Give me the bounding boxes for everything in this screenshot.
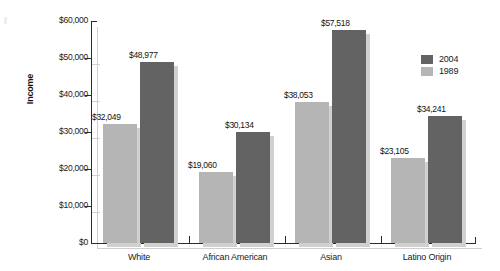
y-axis-tick-shadow: [92, 175, 100, 176]
bar-value-label: $19,060: [188, 160, 217, 170]
x-axis-separator-tick: [285, 236, 286, 244]
y-tick-label: $60,000: [40, 16, 88, 25]
x-axis-separator-tick: [381, 236, 382, 244]
x-category-label: African American: [187, 252, 283, 263]
bar-1989-white[interactable]: [103, 124, 137, 243]
bar-2004-latino-origin[interactable]: [428, 116, 462, 243]
bar-value-label: $30,134: [225, 120, 254, 130]
y-tick-label: $50,000: [40, 53, 88, 62]
y-tick-label: $0: [40, 238, 88, 247]
y-axis-tick-shadow: [92, 138, 100, 139]
legend-swatch: [421, 67, 433, 76]
bar-value-label: $23,105: [380, 146, 409, 156]
y-tick-label: $10,000: [40, 201, 88, 210]
scan-artifact: [4, 17, 7, 24]
y-tick-label: $20,000: [40, 164, 88, 173]
y-axis-tick: [85, 58, 92, 59]
bar-1989-african-american[interactable]: [199, 172, 233, 243]
y-axis-tick: [85, 169, 92, 170]
bar-1989-asian[interactable]: [295, 102, 329, 243]
y-axis-tick-shadow: [92, 212, 100, 213]
plot-area: $32,049$48,977$19,060$30,134$38,053$57,5…: [91, 21, 476, 243]
bar-value-label: $38,053: [284, 90, 313, 100]
x-axis-separator-tick: [189, 236, 190, 244]
x-axis-shadow: [97, 248, 482, 249]
x-category-label: Latino Origin: [379, 252, 475, 263]
legend-label: 1989: [439, 66, 458, 77]
income-bar-chart: Income $0$10,000$20,000$30,000$40,000$50…: [0, 0, 500, 271]
bar-value-label: $32,049: [92, 112, 121, 122]
y-axis-tick: [85, 95, 92, 96]
y-tick-label: $40,000: [40, 90, 88, 99]
y-axis-title: Income: [23, 54, 37, 124]
y-axis-tick-labels: $0$10,000$20,000$30,000$40,000$50,000$60…: [40, 0, 88, 271]
y-axis-tick-shadow: [92, 64, 100, 65]
bar-value-label: $34,241: [417, 104, 446, 114]
bar-value-label: $48,977: [129, 50, 158, 60]
y-tick-label: $30,000: [40, 127, 88, 136]
x-category-label: White: [91, 252, 187, 263]
bar-1989-latino-origin[interactable]: [391, 158, 425, 243]
bar-2004-asian[interactable]: [332, 30, 366, 243]
y-axis-tick: [85, 132, 92, 133]
legend-label: 2004: [439, 54, 458, 65]
bar-value-label: $57,518: [321, 18, 350, 28]
y-axis-tick: [85, 206, 92, 207]
bar-2004-white[interactable]: [140, 62, 174, 243]
legend-swatch: [421, 55, 433, 64]
bar-2004-african-american[interactable]: [236, 132, 270, 243]
y-axis-tick-shadow: [92, 101, 100, 102]
x-category-label: Asian: [283, 252, 379, 263]
